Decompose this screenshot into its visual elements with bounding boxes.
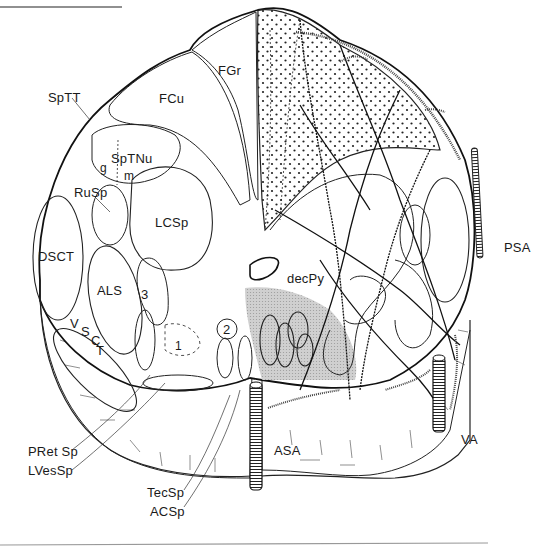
label-FCu: FCu [159, 92, 184, 105]
label-SpTT: SpTT [48, 91, 81, 104]
label-g: g [100, 162, 107, 174]
label-FGr: FGr [218, 64, 241, 77]
label-DSCT: DSCT [38, 250, 74, 263]
label-decPy: decPy [287, 272, 324, 285]
bottom-rule [0, 543, 488, 545]
label-VA: VA [461, 433, 478, 446]
label-PSA: PSA [504, 241, 531, 254]
label-1: 1 [175, 340, 182, 352]
label-ASA: ASA [274, 444, 301, 457]
label-VSCT-T: T [96, 344, 104, 357]
label-TecSp: TecSp [147, 486, 184, 499]
label-ALS: ALS [97, 284, 122, 297]
label-PRetSp: PRet Sp [28, 445, 78, 458]
spinal-cord-diagram [0, 0, 555, 553]
label-2: 2 [223, 323, 230, 336]
label-ACSp: ACSp [150, 505, 185, 518]
label-LVesSp: LVesSp [28, 464, 73, 477]
label-3: 3 [141, 288, 148, 301]
label-VSCT-V: V [70, 317, 79, 330]
label-RuSp: RuSp [74, 186, 107, 199]
VA-vessel [433, 357, 445, 432]
label-m: m [124, 170, 134, 182]
label-LCSp: LCSp [155, 216, 188, 229]
label-VSCT-S: S [81, 325, 90, 338]
label-SpTNu: SpTNu [111, 152, 152, 165]
ASA-vessel [250, 383, 262, 490]
